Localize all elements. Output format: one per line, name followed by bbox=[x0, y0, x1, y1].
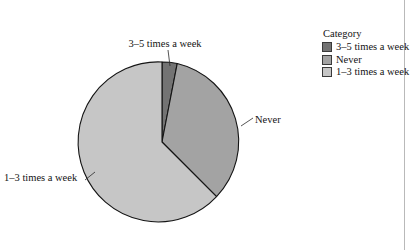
legend-title: Category bbox=[322, 27, 406, 40]
legend: Category 3–5 times a week Never 1–3 time… bbox=[322, 27, 406, 79]
callout-label-1-3-times-a-week: 1–3 times a week bbox=[4, 172, 77, 184]
legend-item-1-3-times-a-week[interactable]: 1–3 times a week bbox=[322, 66, 406, 79]
callout-label-3-5-times-a-week: 3–5 times a week bbox=[128, 38, 201, 50]
legend-item-never[interactable]: Never bbox=[322, 54, 406, 67]
leader-line-never bbox=[241, 118, 253, 126]
legend-item-3-5-times-a-week[interactable]: 3–5 times a week bbox=[322, 41, 406, 54]
legend-label-3-5-times-a-week: 3–5 times a week bbox=[336, 41, 409, 53]
callout-label-never: Never bbox=[255, 114, 281, 126]
legend-label-never: Never bbox=[336, 54, 362, 66]
legend-label-1-3-times-a-week: 1–3 times a week bbox=[336, 66, 409, 78]
legend-swatch-icon-never bbox=[322, 55, 332, 65]
pie-chart-figure: 3–5 times a week Never 1–3 times a week … bbox=[0, 0, 411, 250]
legend-swatch-icon-1-3-times-a-week bbox=[322, 67, 332, 77]
legend-swatch-icon-3-5-times-a-week bbox=[322, 42, 332, 52]
